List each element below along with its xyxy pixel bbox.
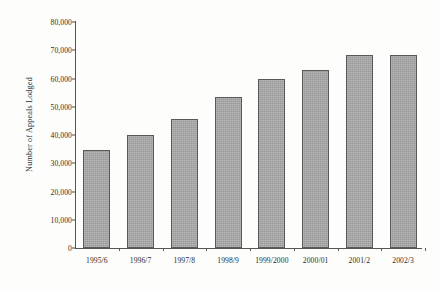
x-tick-mark xyxy=(338,248,339,251)
x-tick-label: 1999/2000 xyxy=(255,256,288,265)
y-tick-label: 10,000 xyxy=(16,215,72,224)
y-tick-label: 20,000 xyxy=(16,187,72,196)
bar xyxy=(127,135,154,248)
x-tick-label: 1998/9 xyxy=(217,256,239,265)
bar-chart: Number of Appeals Lodged 010,00020,00030… xyxy=(0,0,440,291)
x-tick-mark xyxy=(381,248,382,251)
y-tick-label: 80,000 xyxy=(16,18,72,27)
y-tick-label: 30,000 xyxy=(16,159,72,168)
y-tick-label: 50,000 xyxy=(16,102,72,111)
bar xyxy=(258,79,285,249)
bar xyxy=(346,55,373,249)
x-tick-mark xyxy=(206,248,207,251)
bar xyxy=(390,55,417,248)
bar xyxy=(215,97,242,248)
x-axis-line xyxy=(75,248,422,249)
x-tick-mark xyxy=(119,248,120,251)
x-tick-mark xyxy=(294,248,295,251)
x-tick-label: 1997/8 xyxy=(174,256,196,265)
x-tick-label: 2000/01 xyxy=(303,256,329,265)
x-tick-label: 2001/2 xyxy=(349,256,371,265)
x-tick-mark xyxy=(163,248,164,251)
plot-area xyxy=(75,22,425,248)
x-tick-label: 1995/6 xyxy=(86,256,108,265)
y-tick-label: 40,000 xyxy=(16,131,72,140)
bar xyxy=(171,119,198,248)
x-tick-mark xyxy=(425,248,426,251)
y-tick-label: 60,000 xyxy=(16,74,72,83)
y-tick-label: 70,000 xyxy=(16,46,72,55)
x-tick-label: 2002/3 xyxy=(392,256,414,265)
y-axis-ticks: 010,00020,00030,00040,00050,00060,00070,… xyxy=(16,0,72,291)
x-tick-label: 1996/7 xyxy=(130,256,152,265)
y-tick-label: 0 xyxy=(16,244,72,253)
x-tick-mark xyxy=(250,248,251,251)
bar xyxy=(83,150,110,248)
bar xyxy=(302,70,329,248)
